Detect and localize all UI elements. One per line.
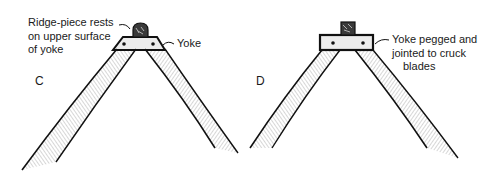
yoke-note-d: Yoke pegged and jointed to cruck blades: [392, 33, 477, 74]
peg-right-c: [151, 42, 155, 46]
peg-left-d: [331, 41, 335, 45]
right-cruck-blade-c: [145, 49, 238, 153]
left-cruck-blade-c: [22, 49, 136, 170]
peg-right-d: [361, 41, 365, 45]
ridge-piece-c: [133, 23, 148, 37]
ridge-piece-d: [341, 22, 355, 35]
figure-letter-c: C: [35, 74, 44, 88]
peg-left-c: [122, 42, 126, 46]
leader-yoke-c: [163, 42, 174, 45]
ridge-note-line-3: of yoke: [28, 43, 114, 57]
yoke-note-line-3: blades: [392, 60, 477, 74]
leader-yoke-d: [375, 40, 389, 45]
leader-ridge-c: [119, 25, 130, 30]
ridge-note-line-2: on upper surface: [28, 30, 114, 44]
cruck-truss-diagram: Ridge-piece rests on upper surface of yo…: [0, 0, 496, 182]
yoke-c: [113, 37, 165, 50]
left-cruck-blade-d: [250, 50, 340, 148]
ridge-piece-note-c: Ridge-piece rests on upper surface of yo…: [28, 16, 114, 57]
yoke-note-line-2: jointed to cruck: [392, 47, 477, 61]
yoke-d: [320, 35, 373, 50]
ridge-note-line-1: Ridge-piece rests: [28, 16, 114, 30]
yoke-label-c: Yoke: [177, 37, 201, 51]
yoke-note-line-1: Yoke pegged and: [392, 33, 477, 47]
figure-letter-d: D: [256, 74, 265, 88]
